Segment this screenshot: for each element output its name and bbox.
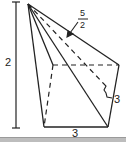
height-label: 2	[5, 56, 11, 68]
slant-numerator: 5	[80, 8, 85, 18]
slant-break-mark	[104, 84, 112, 98]
height-dimension	[12, 2, 20, 128]
slant-arrow	[67, 22, 78, 37]
slant-denominator: 2	[80, 20, 85, 30]
pyramid-diagram: 2 5 2 3 3	[0, 0, 126, 142]
footer-bar	[0, 137, 126, 142]
right-edge-label: 3	[114, 93, 120, 105]
